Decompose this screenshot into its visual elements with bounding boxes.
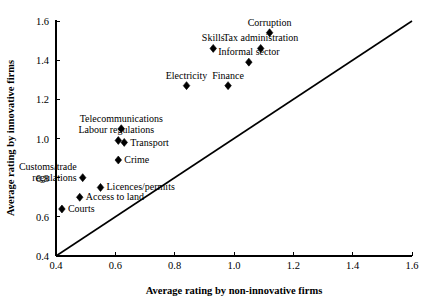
diamond-marker: [97, 183, 104, 191]
data-point: Customs/traderegulations: [19, 161, 86, 183]
point-label: Access to land: [86, 191, 144, 202]
y-tick-label: 0.4: [36, 251, 50, 262]
diamond-marker: [59, 205, 66, 213]
data-points-layer: CorruptionTax administrationSkillsInform…: [19, 17, 298, 214]
x-axis-ticks: 0.40.60.81.01.21.41.6: [49, 252, 418, 271]
data-point: Crime: [115, 154, 150, 165]
data-point: Access to land: [76, 191, 144, 202]
data-point: Electricity: [166, 70, 208, 90]
point-label: Courts: [68, 203, 95, 214]
diamond-marker: [115, 156, 122, 164]
chart-canvas: 0.40.60.81.01.21.41.6 0.40.60.81.01.21.4…: [0, 0, 430, 308]
point-label: Corruption: [248, 17, 292, 28]
y-tick-label: 0.6: [36, 212, 49, 223]
point-label: Labour regulations: [78, 124, 154, 135]
y-tick-label: 1.2: [36, 94, 49, 105]
point-label: Finance: [212, 70, 244, 81]
point-label: Tax administration: [223, 32, 298, 43]
point-label: Customs/traderegulations: [19, 161, 77, 183]
point-label: Telecommunications: [80, 113, 163, 124]
point-label: Skills: [202, 32, 225, 43]
diamond-marker: [76, 193, 83, 201]
x-tick-label: 1.2: [287, 260, 300, 271]
point-label: Transport: [130, 137, 169, 148]
x-axis-title: Average rating by non-innovative firms: [146, 285, 323, 296]
data-point: Transport: [121, 137, 169, 148]
point-label: Crime: [124, 154, 150, 165]
x-tick-label: 1.0: [227, 260, 240, 271]
x-tick-label: 1.4: [346, 260, 360, 271]
diamond-marker: [210, 44, 217, 52]
data-point: Informal sector: [218, 46, 280, 66]
x-tick-label: 0.4: [49, 260, 63, 271]
diamond-marker: [246, 58, 253, 66]
point-label: Electricity: [166, 70, 208, 81]
y-tick-label: 1.4: [36, 55, 50, 66]
diamond-marker: [183, 82, 190, 90]
scatter-chart: 0.40.60.81.01.21.41.6 0.40.60.81.01.21.4…: [0, 0, 430, 308]
point-label: Informal sector: [218, 46, 280, 57]
y-tick-label: 1.0: [36, 134, 49, 145]
x-tick-label: 0.6: [109, 260, 122, 271]
diamond-marker: [79, 174, 86, 182]
diamond-marker: [115, 136, 122, 144]
diamond-marker: [225, 82, 232, 90]
data-point: Courts: [59, 203, 95, 214]
x-tick-label: 1.6: [405, 260, 418, 271]
y-tick-label: 1.6: [36, 16, 49, 27]
y-axis-title: Average rating by innovative firms: [5, 60, 16, 216]
x-tick-label: 0.8: [168, 260, 181, 271]
diamond-marker: [121, 138, 128, 146]
data-point: Finance: [212, 70, 244, 90]
